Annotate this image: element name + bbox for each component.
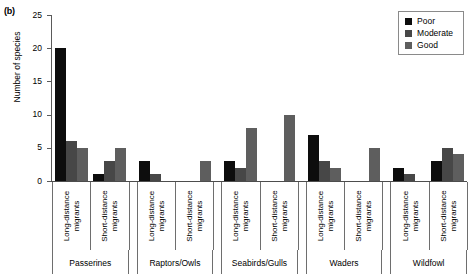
x-group-cell: Passerines bbox=[52, 250, 129, 274]
x-axis-tick bbox=[213, 182, 214, 250]
bar bbox=[66, 141, 77, 181]
bar bbox=[404, 174, 415, 181]
x-subgroup-label: Long-distancemigrants bbox=[146, 191, 165, 241]
bar bbox=[224, 161, 235, 181]
x-axis-tick bbox=[429, 182, 430, 250]
x-subgroup-cell: Short-distancemigrants bbox=[260, 182, 298, 250]
x-group-label: Passerines bbox=[52, 258, 129, 268]
x-group-edge bbox=[221, 250, 222, 274]
x-axis-tick bbox=[90, 182, 91, 250]
x-group-cell: Wildfowl bbox=[390, 250, 467, 274]
legend-item[interactable]: Good bbox=[405, 39, 453, 51]
x-group-edge bbox=[297, 250, 298, 274]
x-subgroup-cell: Long-distancemigrants bbox=[221, 182, 259, 250]
x-subgroup-label: Long-distancemigrants bbox=[62, 191, 81, 241]
bar bbox=[115, 148, 126, 181]
x-subgroup-label: Short-distancemigrants bbox=[100, 190, 119, 242]
legend: PoorModerateGood bbox=[398, 11, 464, 55]
y-tick-label: 10 bbox=[18, 109, 42, 119]
bar bbox=[93, 174, 104, 181]
x-group-label: Wildfowl bbox=[390, 258, 467, 268]
bar bbox=[369, 148, 380, 181]
y-axis-title: Number of species bbox=[12, 12, 22, 122]
bar bbox=[319, 161, 330, 181]
x-group-edge bbox=[390, 250, 391, 274]
bar bbox=[104, 161, 115, 181]
bar bbox=[55, 48, 66, 181]
y-tick-label: 5 bbox=[18, 142, 42, 152]
legend-swatch-icon bbox=[405, 18, 412, 25]
x-subgroup-label: Short-distancemigrants bbox=[438, 190, 457, 242]
bar bbox=[453, 154, 464, 181]
bar bbox=[246, 128, 257, 181]
x-subgroup-cell: Long-distancemigrants bbox=[306, 182, 344, 250]
legend-label: Good bbox=[417, 41, 438, 50]
x-subgroup-label: Short-distancemigrants bbox=[269, 190, 288, 242]
x-subgroup-label: Long-distancemigrants bbox=[400, 191, 419, 241]
x-group-edge bbox=[381, 250, 382, 274]
x-axis-tick bbox=[221, 182, 222, 250]
legend-label: Poor bbox=[417, 17, 435, 26]
figure-panel-b: (b) Number of species 0510152025 PoorMod… bbox=[0, 0, 471, 275]
bar bbox=[150, 174, 161, 181]
bar bbox=[330, 168, 341, 181]
legend-swatch-icon bbox=[405, 30, 412, 37]
bar bbox=[235, 168, 246, 181]
x-subgroup-cell: Short-distancemigrants bbox=[90, 182, 128, 250]
legend-item[interactable]: Moderate bbox=[405, 27, 453, 39]
x-group-edge bbox=[212, 250, 213, 274]
bar bbox=[431, 161, 442, 181]
x-subgroup-cell: Long-distancemigrants bbox=[137, 182, 175, 250]
x-subgroup-cell: Short-distancemigrants bbox=[344, 182, 382, 250]
x-group-cell: Raptors/Owls bbox=[137, 250, 214, 274]
x-subgroup-label: Long-distancemigrants bbox=[231, 191, 250, 241]
x-subgroup-cell: Long-distancemigrants bbox=[52, 182, 90, 250]
x-subgroup-label: Long-distancemigrants bbox=[315, 191, 334, 241]
x-subgroup-label: Short-distancemigrants bbox=[354, 190, 373, 242]
bar bbox=[284, 115, 295, 181]
x-axis-tick bbox=[344, 182, 345, 250]
x-subgroup-cell: Short-distancemigrants bbox=[429, 182, 467, 250]
x-group-label: Waders bbox=[306, 258, 383, 268]
x-axis-tick bbox=[260, 182, 261, 250]
x-subgroup-cell: Short-distancemigrants bbox=[175, 182, 213, 250]
y-tick-label: 25 bbox=[18, 10, 42, 20]
x-axis-tick bbox=[175, 182, 176, 250]
x-group-edge bbox=[306, 250, 307, 274]
x-group-cell: Waders bbox=[306, 250, 383, 274]
x-subgroup-cell: Long-distancemigrants bbox=[390, 182, 428, 250]
legend-item[interactable]: Poor bbox=[405, 15, 453, 27]
x-group-cell: Seabirds/Gulls bbox=[221, 250, 298, 274]
x-axis-tick bbox=[52, 182, 53, 250]
x-axis-tick bbox=[298, 182, 299, 250]
legend-label: Moderate bbox=[417, 29, 453, 38]
y-tick-label: 20 bbox=[18, 43, 42, 53]
x-axis-tick bbox=[390, 182, 391, 250]
x-group-edge bbox=[466, 250, 467, 274]
y-tick-label: 0 bbox=[18, 176, 42, 186]
x-subgroup-label: Short-distancemigrants bbox=[185, 190, 204, 242]
x-axis-labels: Long-distancemigrantsShort-distancemigra… bbox=[52, 182, 467, 275]
bar bbox=[200, 161, 211, 181]
x-axis-tick bbox=[129, 182, 130, 250]
bar bbox=[139, 161, 150, 181]
x-group-label: Seabirds/Gulls bbox=[221, 258, 298, 268]
bar bbox=[442, 148, 453, 181]
y-tick-label: 15 bbox=[18, 76, 42, 86]
x-group-edge bbox=[52, 250, 53, 274]
x-axis-tick bbox=[382, 182, 383, 250]
bar bbox=[393, 168, 404, 181]
x-axis-tick bbox=[306, 182, 307, 250]
x-group-label: Raptors/Owls bbox=[137, 258, 214, 268]
x-axis-tick bbox=[467, 182, 468, 250]
x-axis-tick bbox=[137, 182, 138, 250]
x-group-edge bbox=[128, 250, 129, 274]
bar bbox=[308, 135, 319, 181]
x-group-edge bbox=[137, 250, 138, 274]
bar bbox=[77, 148, 88, 181]
legend-swatch-icon bbox=[405, 42, 412, 49]
